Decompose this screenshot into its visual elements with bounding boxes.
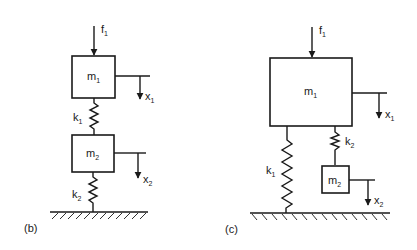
- svg-text:k1: k1: [266, 164, 276, 178]
- displacement-arrow-x2: x2: [114, 153, 153, 187]
- caption-b: (b): [24, 222, 37, 234]
- svg-text:x2: x2: [374, 194, 384, 208]
- displacement-arrow-x1: x1: [115, 76, 155, 104]
- displacement-arrow-x1: x1: [352, 93, 395, 122]
- mass-m1: m1: [270, 58, 352, 126]
- force-arrow-f1: f1: [94, 23, 108, 55]
- svg-text:k2: k2: [345, 135, 355, 149]
- mass-m1: m1: [72, 56, 115, 98]
- ground: [50, 212, 148, 219]
- diagram-b: f1 m1 x1 k1 m2 x2: [24, 23, 155, 234]
- svg-text:x2: x2: [143, 173, 153, 187]
- svg-text:k2: k2: [72, 188, 82, 202]
- caption-c: (c): [225, 223, 238, 235]
- mass-m2: m2: [72, 135, 114, 172]
- ground: [250, 213, 390, 220]
- displacement-arrow-x2: x2: [349, 180, 384, 208]
- mass-spring-diagrams: f1 m1 x1 k1 m2 x2: [0, 0, 417, 250]
- mass-m2: m2: [322, 166, 349, 193]
- spring-k2: k2: [331, 126, 355, 165]
- diagram-c: f1 m1 x1 k1 k2 m2: [225, 24, 395, 235]
- spring-k1: k1: [266, 126, 292, 213]
- svg-text:x1: x1: [145, 90, 155, 104]
- force-arrow-f1: f1: [312, 24, 326, 57]
- svg-text:f1: f1: [101, 23, 108, 37]
- svg-text:f1: f1: [319, 24, 326, 38]
- svg-text:k1: k1: [73, 111, 83, 125]
- spring-k2: k2: [72, 172, 97, 212]
- spring-k1: k1: [73, 98, 98, 135]
- svg-text:x1: x1: [385, 108, 395, 122]
